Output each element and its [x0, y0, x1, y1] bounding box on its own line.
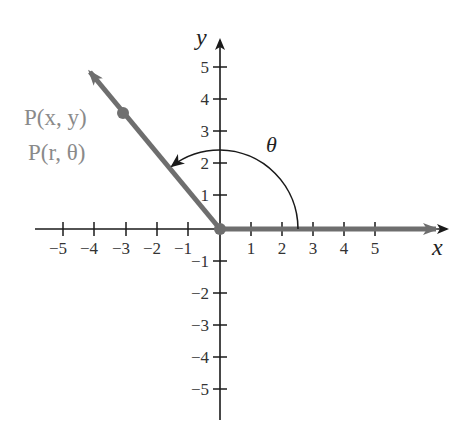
- y-tick-label: 1: [201, 186, 210, 205]
- diagram-canvas: −5 −4 −3 −2 −1 1 2 3 4 5 x 5: [0, 0, 468, 436]
- y-tick-label: −3: [191, 316, 209, 335]
- x-tick-label: −1: [174, 239, 192, 258]
- y-tick-label: −5: [191, 380, 209, 399]
- origin-point: [214, 223, 226, 235]
- x-tick-label: −4: [80, 239, 99, 258]
- x-tick-labels: −5 −4 −3 −2 −1 1 2 3 4 5: [49, 239, 379, 258]
- y-tick-label: 5: [201, 58, 210, 77]
- y-tick-label: 3: [201, 122, 210, 141]
- y-tick-label: −1: [191, 252, 209, 271]
- y-tick-label: 2: [201, 154, 210, 173]
- x-tick-label: −2: [143, 239, 161, 258]
- x-tick-label: 4: [340, 239, 349, 258]
- angle-arc: [172, 150, 298, 229]
- x-tick-label: 3: [309, 239, 318, 258]
- y-axis: 5 4 3 2 1 −1 −2 −3 −4 −5 y: [191, 24, 227, 420]
- y-tick-label: −4: [191, 348, 210, 367]
- x-axis-label: x: [431, 234, 443, 260]
- point-p: [117, 107, 129, 119]
- y-tick-label: −2: [191, 284, 209, 303]
- point-label-polar: P(r, θ): [28, 140, 85, 165]
- x-tick-label: −5: [49, 239, 67, 258]
- y-axis-label: y: [194, 24, 207, 50]
- x-tick-label: 2: [278, 239, 287, 258]
- point-label-cartesian: P(x, y): [24, 105, 87, 130]
- polar-coordinate-diagram: −5 −4 −3 −2 −1 1 2 3 4 5 x 5: [0, 0, 468, 436]
- x-tick-label: 5: [371, 239, 380, 258]
- x-tick-label: 1: [247, 239, 256, 258]
- x-tick-label: −3: [112, 239, 130, 258]
- y-tick-label: 4: [201, 90, 210, 109]
- theta-label: θ: [266, 132, 277, 157]
